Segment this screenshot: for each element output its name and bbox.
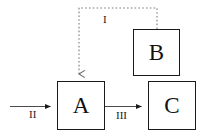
edge-label-i: I (103, 14, 107, 25)
block-diagram: A B C I II III (0, 0, 207, 139)
block-c[interactable]: C (148, 81, 196, 130)
block-c-label: C (164, 94, 179, 117)
edge-label-ii: II (29, 109, 36, 120)
edge-label-iii: III (116, 110, 127, 121)
block-b[interactable]: B (133, 29, 180, 76)
block-a[interactable]: A (57, 81, 105, 130)
block-b-label: B (149, 41, 164, 64)
block-a-label: A (73, 94, 90, 117)
